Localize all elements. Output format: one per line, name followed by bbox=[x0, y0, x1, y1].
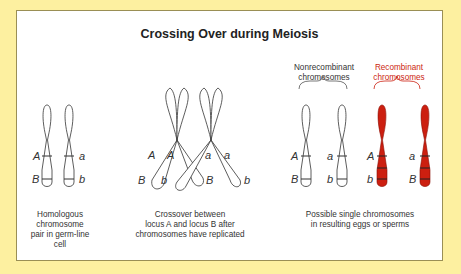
label-line: Recombinant bbox=[355, 63, 443, 73]
recombinant-label: Recombinant chromosomes bbox=[355, 63, 443, 83]
svg-text:A: A bbox=[32, 150, 40, 162]
svg-text:B: B bbox=[291, 173, 298, 185]
caption-line: chromosomes have replicated bbox=[125, 230, 255, 240]
caption-line: in resulting eggs or sperms bbox=[290, 220, 430, 230]
caption-line: Homologous bbox=[20, 210, 100, 220]
svg-text:A: A bbox=[166, 149, 174, 161]
svg-text:a: a bbox=[327, 150, 333, 162]
svg-text:b: b bbox=[161, 174, 167, 186]
caption-resulting-gametes: Possible single chromosomes in resulting… bbox=[290, 210, 430, 230]
caption-crossover: Crossover between locus A and locus B af… bbox=[125, 210, 255, 240]
svg-text:b: b bbox=[367, 173, 373, 185]
chromosome-pair: Aa Bb bbox=[32, 105, 85, 187]
svg-text:a: a bbox=[224, 149, 230, 161]
svg-text:A: A bbox=[147, 149, 155, 161]
svg-text:a: a bbox=[79, 150, 85, 162]
caption-line: Possible single chromosomes bbox=[290, 210, 430, 220]
caption-line: pair in germ-line bbox=[20, 230, 100, 240]
svg-text:A: A bbox=[366, 150, 374, 162]
label-line: chromosomes bbox=[355, 73, 443, 83]
svg-text:a: a bbox=[205, 149, 211, 161]
svg-text:B: B bbox=[206, 174, 213, 186]
svg-text:B: B bbox=[32, 173, 39, 185]
caption-line: locus A and locus B after bbox=[125, 220, 255, 230]
caption-homologous-pair: Homologous chromosome pair in germ-line … bbox=[20, 210, 100, 250]
svg-text:b: b bbox=[244, 174, 250, 186]
svg-text:B: B bbox=[409, 173, 416, 185]
caption-line: Crossover between bbox=[125, 210, 255, 220]
svg-text:B: B bbox=[138, 174, 145, 186]
caption-line: chromosome bbox=[20, 220, 100, 230]
svg-text:b: b bbox=[327, 173, 333, 185]
svg-text:b: b bbox=[79, 173, 85, 185]
svg-text:a: a bbox=[409, 150, 415, 162]
svg-text:A: A bbox=[290, 150, 298, 162]
caption-line: cell bbox=[20, 240, 100, 250]
